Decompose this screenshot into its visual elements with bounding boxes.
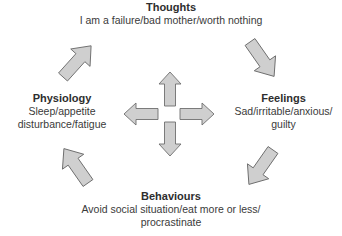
center-arrow-right	[180, 103, 214, 125]
node-thoughts: Thoughts I am a failure/bad mother/worth…	[60, 1, 282, 27]
node-desc-line: I am a failure/bad mother/worth nothing	[60, 14, 282, 27]
node-behaviours: Behaviours Avoid social situation/eat mo…	[60, 190, 282, 229]
node-title: Behaviours	[60, 190, 282, 203]
center-arrow-left	[124, 103, 158, 125]
node-feelings: Feelings Sad/irritable/anxious/ guilty	[225, 92, 342, 131]
arrow-behaviours-to-physiology	[53, 141, 98, 190]
arrow-thoughts-to-feelings	[239, 35, 284, 84]
node-desc-line: Avoid social situation/eat more or less/	[60, 203, 282, 216]
node-desc-line: disturbance/fatigue	[0, 118, 124, 131]
node-title: Physiology	[0, 92, 124, 105]
arrow-physiology-to-thoughts	[53, 37, 100, 86]
node-title: Thoughts	[60, 1, 282, 14]
arrow-feelings-to-behaviours	[238, 143, 283, 192]
node-desc-line: procrastinate	[60, 216, 282, 229]
node-desc-line: Sad/irritable/anxious/	[225, 105, 342, 118]
node-desc-line: Sleep/appetite	[0, 105, 124, 118]
node-desc-line: guilty	[225, 118, 342, 131]
node-title: Feelings	[225, 92, 342, 105]
node-physiology: Physiology Sleep/appetite disturbance/fa…	[0, 92, 124, 131]
center-arrow-up	[159, 72, 181, 106]
center-arrow-down	[159, 122, 181, 156]
